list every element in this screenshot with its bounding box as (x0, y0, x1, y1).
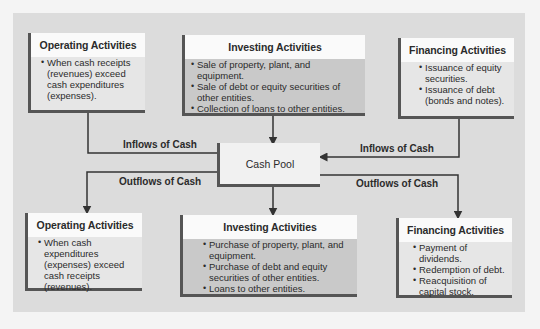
list-item: Redemption of debt. (413, 264, 506, 275)
list-item: Collection of loans to other entities. (191, 103, 359, 114)
list-item: Payment of dividends. (413, 242, 506, 264)
cash-pool-box: Cash Pool (217, 143, 320, 187)
list-item: Issuance of equity securities. (419, 62, 508, 84)
list-item: Sale of property, plant, and equipment. (191, 59, 359, 81)
investing-outflow-box: Investing Activities Purchase of propert… (180, 215, 357, 297)
box-title: Investing Activities (183, 215, 357, 239)
operating-inflow-box: Operating Activities When cash receipts … (28, 33, 145, 113)
box-title: Financing Activities (399, 218, 512, 242)
box-items: Issuance of equity securities. Issuance … (401, 62, 514, 110)
operating-outflow-box: Operating Activities When cash expenditu… (25, 213, 142, 291)
box-title: Investing Activities (185, 35, 365, 59)
inflows-left-label: Inflows of Cash (123, 139, 197, 150)
box-items: Purchase of property, plant, and equipme… (183, 239, 357, 298)
box-title: Operating Activities (31, 33, 145, 57)
box-items: When cash receipts (revenues) exceed cas… (31, 57, 145, 105)
list-item: Purchase of debt and equity securities o… (203, 261, 351, 283)
box-items: When cash expenditures (expenses) exceed… (28, 237, 142, 296)
box-title: Financing Activities (401, 38, 514, 62)
outflows-left-label: Outflows of Cash (119, 176, 201, 187)
box-title: Operating Activities (28, 213, 142, 237)
cash-pool-label: Cash Pool (246, 158, 294, 170)
box-items: Sale of property, plant, and equipment. … (185, 59, 365, 118)
list-item: Loans to other entities. (203, 283, 351, 294)
list-item: When cash expenditures (expenses) exceed… (38, 237, 136, 292)
inflows-right-label: Inflows of Cash (360, 143, 434, 154)
financing-inflow-box: Financing Activities Issuance of equity … (398, 38, 514, 119)
financing-outflow-box: Financing Activities Payment of dividend… (396, 218, 512, 298)
investing-inflow-box: Investing Activities Sale of property, p… (182, 35, 365, 116)
list-item: When cash receipts (revenues) exceed cas… (41, 57, 139, 101)
outflows-right-label: Outflows of Cash (356, 178, 438, 189)
list-item: Issuance of debt (bonds and notes). (419, 84, 508, 106)
list-item: Purchase of property, plant, and equipme… (203, 239, 351, 261)
list-item: Reacquisition of capital stock. (413, 275, 506, 297)
box-items: Payment of dividends. Redemption of debt… (399, 242, 512, 301)
list-item: Sale of debt or equity securities of oth… (191, 81, 359, 103)
